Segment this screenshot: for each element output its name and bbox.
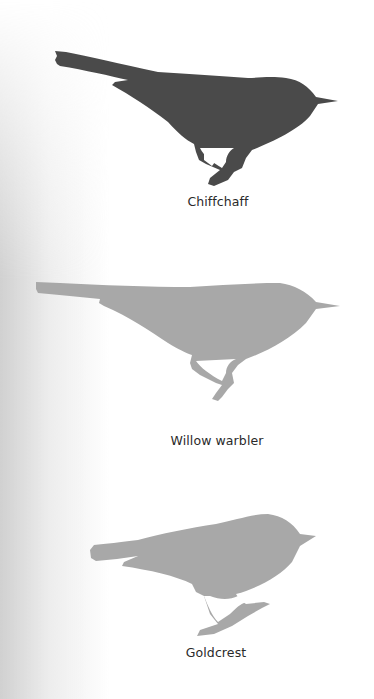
willow-warbler-caption: Willow warbler: [170, 433, 263, 448]
chiffchaff-silhouette: [0, 0, 374, 200]
goldcrest-silhouette: [0, 466, 374, 646]
goldcrest-caption: Goldcrest: [186, 645, 246, 660]
chiffchaff-caption: Chiffchaff: [187, 194, 248, 209]
willow-warbler-silhouette: [0, 233, 374, 423]
